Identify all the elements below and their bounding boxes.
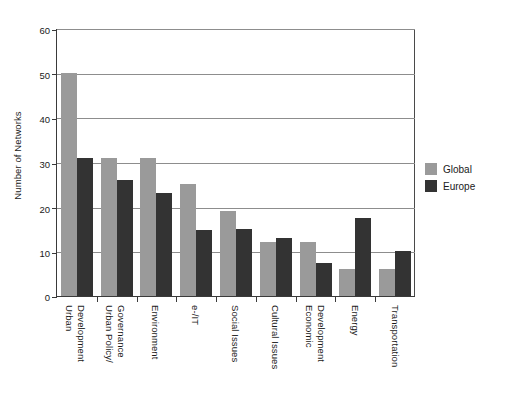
x-axis-label-line: e-/IT <box>190 305 201 325</box>
bar-group <box>97 29 137 296</box>
x-axis-label: e-/IT <box>176 303 216 393</box>
x-axis-label: Cultural Issues <box>255 303 295 393</box>
x-tick-mark <box>335 296 336 302</box>
bar-global <box>140 158 156 296</box>
bar-global <box>260 242 276 296</box>
y-tick-label-40: 40 <box>39 114 57 125</box>
x-axis-label-line: Cultural Issues <box>270 305 281 369</box>
chart-legend: GlobalEurope <box>425 163 475 192</box>
bar-group <box>335 29 375 296</box>
bar-europe <box>156 193 172 296</box>
x-axis-label: UrbanDevelopment <box>56 303 96 393</box>
x-tick-mark <box>256 296 257 302</box>
y-tick-label-0: 0 <box>45 292 57 303</box>
legend-item[interactable]: Europe <box>425 180 475 192</box>
plot-area: 60 50 40 30 20 10 0 <box>56 29 415 297</box>
bar-chart-figure: Number of Networks 60 50 40 30 20 10 0 U… <box>0 0 510 396</box>
x-axis-label-line: Governance <box>116 305 127 363</box>
bar-europe <box>395 251 411 296</box>
legend-label: Global <box>443 164 472 175</box>
x-tick-mark <box>375 296 376 302</box>
bar-group <box>176 29 216 296</box>
bar-europe <box>236 229 252 296</box>
x-axis-label-line: Transportation <box>390 305 401 367</box>
bar-europe <box>77 158 93 296</box>
x-axis-label: Urban Policy/Governance <box>96 303 136 393</box>
x-axis-label-line: Urban Policy/ <box>104 305 115 363</box>
legend-item[interactable]: Global <box>425 163 475 175</box>
bar-global <box>180 184 196 296</box>
y-tick-label-50: 50 <box>39 69 57 80</box>
x-axis-label-line: Development <box>316 305 327 362</box>
x-axis-label: Energy <box>335 303 375 393</box>
bar-group <box>256 29 296 296</box>
x-axis-labels: UrbanDevelopmentUrban Policy/GovernanceE… <box>56 303 415 393</box>
bar-global <box>300 242 316 296</box>
y-axis-title: Number of Networks <box>6 0 28 310</box>
x-axis-label: EconomicDevelopment <box>295 303 335 393</box>
y-tick-label-20: 20 <box>39 203 57 214</box>
x-tick-mark <box>296 296 297 302</box>
bar-global <box>220 211 236 296</box>
x-axis-label-line: Economic <box>304 305 315 362</box>
y-tick-label-10: 10 <box>39 248 57 259</box>
bar-europe <box>316 263 332 297</box>
bar-group <box>296 29 336 296</box>
bar-global <box>379 269 395 296</box>
x-axis-label-line: Environment <box>150 305 161 359</box>
x-axis-label-line: Development <box>76 305 87 362</box>
bar-global <box>101 158 117 296</box>
x-tick-mark <box>97 296 98 302</box>
y-tick-label-30: 30 <box>39 159 57 170</box>
bar-group <box>216 29 256 296</box>
legend-swatch <box>425 163 437 175</box>
x-axis-label: Transportation <box>375 303 415 393</box>
bar-europe <box>355 218 371 296</box>
bar-global <box>61 73 77 296</box>
bar-group <box>57 29 97 296</box>
x-tick-mark <box>137 296 138 302</box>
x-axis-label-line: Energy <box>350 305 361 336</box>
x-tick-mark <box>216 296 217 302</box>
x-tick-mark <box>176 296 177 302</box>
legend-swatch <box>425 180 437 192</box>
x-axis-label: Environment <box>136 303 176 393</box>
x-axis-label: Social Issues <box>216 303 256 393</box>
bar-europe <box>276 238 292 296</box>
bar-groups <box>57 29 415 296</box>
bar-europe <box>117 180 133 296</box>
legend-label: Europe <box>443 181 475 192</box>
bar-europe <box>196 230 212 296</box>
bar-global <box>339 269 355 296</box>
y-tick-label-60: 60 <box>39 25 57 36</box>
y-axis-title-text: Number of Networks <box>12 111 23 199</box>
x-axis-label-line: Social Issues <box>230 305 241 362</box>
bar-group <box>375 29 415 296</box>
bar-group <box>137 29 177 296</box>
x-axis-label-line: Urban <box>64 305 75 362</box>
